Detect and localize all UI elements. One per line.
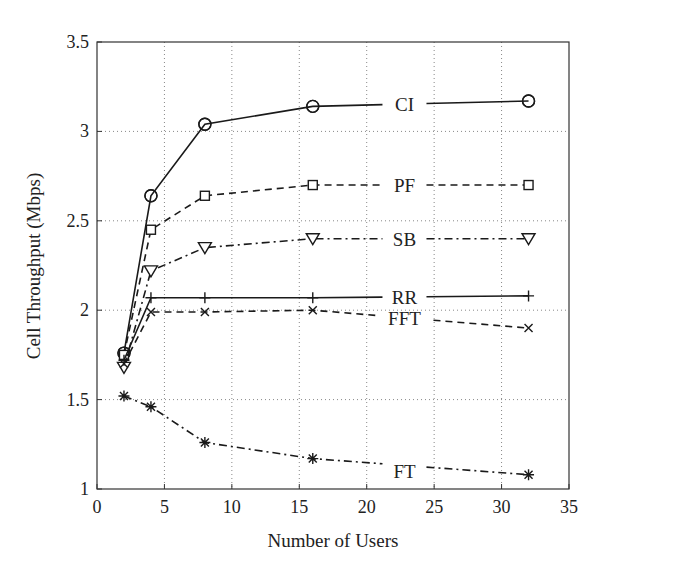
series-label-ci: CI bbox=[395, 94, 414, 115]
x-tick-label: 35 bbox=[560, 497, 578, 517]
line-chart: CIPFSBRRFFTFT 05101520253035 11.522.533.… bbox=[0, 0, 695, 574]
y-tick-label: 1.5 bbox=[67, 390, 90, 410]
x-tick-label: 15 bbox=[290, 497, 308, 517]
x-axis-title: Number of Users bbox=[268, 530, 399, 551]
y-tick-label: 3 bbox=[80, 121, 89, 141]
series-label-ft: FT bbox=[393, 461, 416, 482]
square-marker bbox=[146, 225, 155, 234]
square-marker bbox=[524, 181, 533, 190]
series-label-sb: SB bbox=[393, 229, 416, 250]
y-tick-label: 2 bbox=[80, 300, 89, 320]
y-tick-label: 1 bbox=[80, 479, 89, 499]
series-label-pf: PF bbox=[394, 175, 415, 196]
asterisk-marker bbox=[307, 453, 318, 464]
y-axis-title: Cell Throughput (Mbps) bbox=[23, 173, 45, 359]
asterisk-marker bbox=[199, 437, 210, 448]
x-tick-label: 30 bbox=[493, 497, 511, 517]
x-tick-label: 5 bbox=[160, 497, 169, 517]
asterisk-marker bbox=[118, 391, 129, 402]
square-marker bbox=[308, 181, 317, 190]
x-tick-label: 25 bbox=[425, 497, 443, 517]
plot-area bbox=[97, 42, 569, 489]
y-tick-label: 3.5 bbox=[67, 32, 90, 52]
asterisk-marker bbox=[145, 401, 156, 412]
square-marker bbox=[200, 191, 209, 200]
series-label-rr: RR bbox=[392, 287, 418, 308]
x-tick-label: 20 bbox=[358, 497, 376, 517]
asterisk-marker bbox=[523, 469, 534, 480]
x-tick-label: 10 bbox=[223, 497, 241, 517]
y-tick-label: 2.5 bbox=[67, 211, 90, 231]
x-tick-label: 0 bbox=[93, 497, 102, 517]
series-label-fft: FFT bbox=[388, 308, 421, 329]
